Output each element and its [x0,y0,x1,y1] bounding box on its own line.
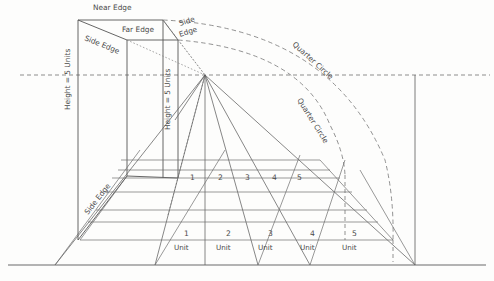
near-row-number-3: 3 [268,229,273,238]
quarter-circle-lower-label: Quarter Circle [295,96,330,145]
grid-diagonal-3 [310,160,345,265]
far-edge-label: Far Edge [122,25,155,34]
near-row-number-1: 1 [184,229,189,238]
far-row-number-3: 3 [245,173,250,182]
unit-label-group: Unit Unit Unit Unit Unit [174,243,357,252]
far-row-number-4: 4 [272,173,277,182]
unit-label-2: Unit [216,243,231,252]
quarter-circle-upper-label: Quarter Circle [291,40,336,82]
perspective-drawing-canvas: 1 2 3 4 5 1 2 3 4 5 Unit Unit Unit Unit … [0,0,494,281]
far-row-number-group: 1 2 3 4 5 [190,173,302,182]
far-row-number-5: 5 [297,173,302,182]
grid-diagonal-0 [55,150,140,265]
near-edge-label: Near Edge [93,3,132,12]
near-row-number-5: 5 [352,229,357,238]
grid-diagonal-1 [155,150,225,265]
unit-label-5: Unit [342,243,357,252]
near-row-number-2: 2 [226,229,231,238]
grid-right-boundary [320,160,393,240]
height-left-label: Height = 5 Units [63,49,72,110]
height-inner-label: Height = 5 Units [163,69,172,130]
side-edge-upper-left-label: Side Edge [83,34,121,56]
perspective-diagram: 1 2 3 4 5 1 2 3 4 5 Unit Unit Unit Unit … [0,0,494,281]
far-row-number-1: 1 [190,173,195,182]
near-row-number-group: 1 2 3 4 5 [184,229,357,238]
unit-label-4: Unit [300,243,315,252]
near-row-number-4: 4 [310,229,315,238]
annotation-labels: Near Edge Far Edge Side Edge Side Edge S… [63,3,335,216]
far-row-number-2: 2 [218,173,223,182]
grid-diagonal-4 [360,170,415,265]
unit-label-1: Unit [174,243,189,252]
unit-label-3: Unit [258,243,273,252]
grid-diagonals [55,150,415,265]
ray-to-box-left [175,75,205,120]
